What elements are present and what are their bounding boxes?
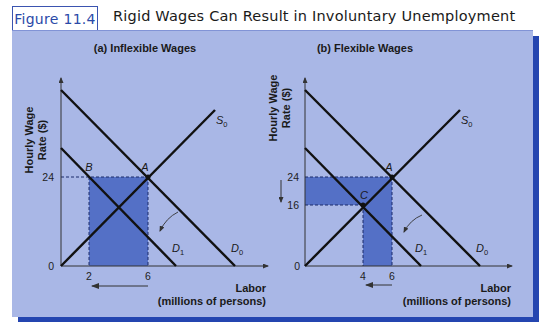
chart-b-x-axis-label-line2: (millions of persons) <box>403 295 512 307</box>
chart-a-title: (a) Inflexible Wages <box>94 42 196 54</box>
chart-b-point-c-label: C <box>360 189 368 201</box>
chart-a-d1-label: D1 <box>172 242 184 257</box>
chart-b-x-tick-6: 6 <box>389 270 395 282</box>
chart-b-employment-drop-area <box>363 205 392 266</box>
chart-b-d1-label: D1 <box>415 242 427 257</box>
chart-a-s0-label: S0 <box>216 114 228 129</box>
svg-text:Hourly Wage: Hourly Wage <box>23 107 35 174</box>
svg-text:Rate ($): Rate ($) <box>280 87 292 128</box>
svg-text:Rate ($): Rate ($) <box>36 119 48 160</box>
chart-a-x-tick-6: 6 <box>145 270 151 282</box>
chart-b-point-a-dot <box>390 175 395 180</box>
chart-b-shift-arrow-icon <box>404 215 422 232</box>
chart-a-d0-label: D0 <box>231 242 243 257</box>
chart-b-y-axis-label: Hourly Wage Rate ($) <box>267 75 292 142</box>
chart-a-x-axis-label-line1: Labor <box>235 282 266 294</box>
chart-a-point-a-label: A <box>140 161 148 173</box>
chart-a-point-b-label: B <box>85 161 92 173</box>
chart-b-s0-label: S0 <box>461 114 473 129</box>
chart-b-flexible-wages: (b) Flexible Wages Hourly Wage Rate ($) <box>267 42 512 307</box>
chart-a-inflexible-wages: (a) Inflexible Wages Hourly Wage Rate ($… <box>23 42 268 307</box>
chart-b-y-tick-16: 16 <box>287 199 299 211</box>
chart-a-unemployment-area <box>89 177 148 266</box>
figure-charts: (a) Inflexible Wages Hourly Wage Rate ($… <box>0 0 548 333</box>
chart-a-point-a-dot <box>146 175 151 180</box>
chart-a-y-tick-24: 24 <box>42 171 54 183</box>
chart-b-point-a-label: A <box>384 161 392 173</box>
chart-a-origin-label: 0 <box>48 260 54 272</box>
chart-b-title: (b) Flexible Wages <box>317 42 413 54</box>
svg-text:Hourly Wage: Hourly Wage <box>267 75 279 142</box>
chart-b-d0-label: D0 <box>476 242 488 257</box>
chart-a-y-axis-label: Hourly Wage Rate ($) <box>23 107 48 174</box>
chart-a-x-tick-2: 2 <box>86 270 92 282</box>
chart-a-x-axis-label-line2: (millions of persons) <box>158 295 267 307</box>
chart-b-x-tick-4: 4 <box>360 270 366 282</box>
chart-a-shift-arrow-icon <box>160 212 178 231</box>
chart-b-y-tick-24: 24 <box>287 171 299 183</box>
chart-b-x-axis-label-line1: Labor <box>480 282 511 294</box>
chart-b-origin-label: 0 <box>294 260 300 272</box>
chart-b-point-c-dot <box>361 203 366 208</box>
